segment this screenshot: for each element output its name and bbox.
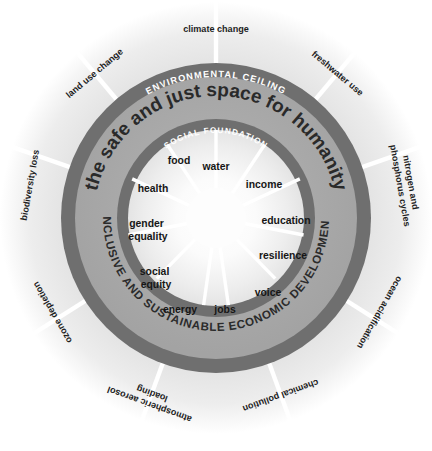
doughnut-diagram-canvas: ENVIRONMENTAL CEILING the safe and just … bbox=[0, 0, 432, 451]
social-label-income: income bbox=[246, 179, 283, 190]
core-center-glow bbox=[186, 188, 246, 248]
doughnut-economics-figure: ENVIRONMENTAL CEILING the safe and just … bbox=[0, 0, 432, 451]
social-label-voice: voice bbox=[255, 287, 282, 298]
boundary-label-climate-change: climate change bbox=[183, 24, 249, 34]
social-label-resilience: resilience bbox=[259, 250, 307, 261]
social-label-jobs: jobs bbox=[213, 304, 236, 315]
social-label-energy: energy bbox=[163, 304, 197, 315]
social-label-water: water bbox=[201, 161, 229, 172]
social-label-health: health bbox=[138, 183, 169, 194]
social-label-food: food bbox=[168, 155, 191, 166]
social-label-education: education bbox=[261, 215, 310, 226]
